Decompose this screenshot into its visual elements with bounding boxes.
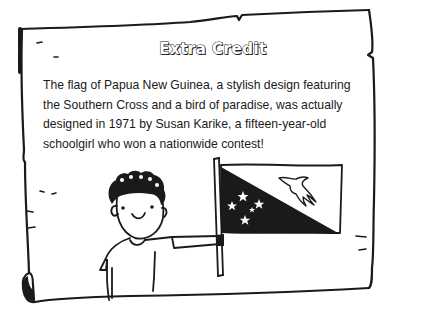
- boy-figure: [100, 195, 220, 300]
- flag-papua-new-guinea: [221, 164, 342, 233]
- card-title: Extra Credit: [0, 40, 426, 58]
- card-body-text: The flag of Papua New Guinea, a stylish …: [43, 76, 363, 154]
